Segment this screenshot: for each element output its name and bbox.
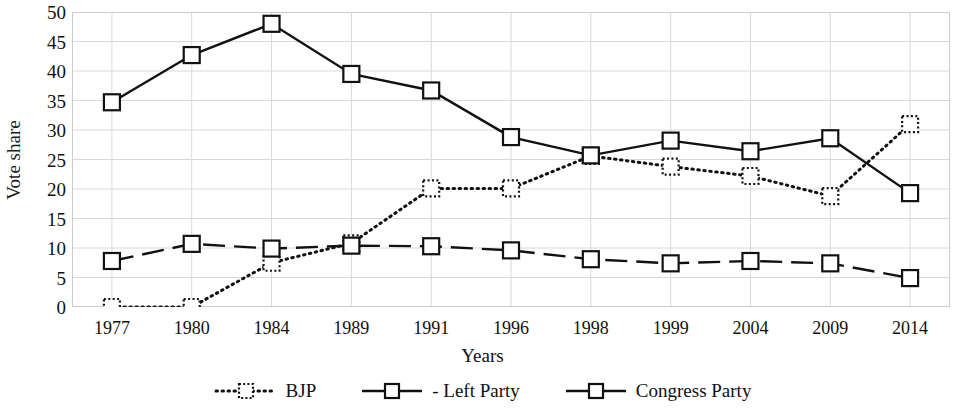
y-axis-tick-label: 20 [26,180,66,199]
x-axis-tick-label: 1998 [546,318,636,339]
x-axis-tick-label: 2014 [865,318,955,339]
legend-label: - Left Party [432,380,520,402]
x-axis-tick-label: 1984 [227,318,317,339]
data-point-marker [583,147,599,163]
x-axis-tick-label: 1980 [147,318,237,339]
y-axis-tick-label: 50 [26,3,66,22]
data-point-marker [822,255,838,271]
legend-swatch-icon [564,382,628,400]
data-point-marker [184,47,200,63]
data-point-marker [902,270,918,286]
x-axis-tick-label: 1999 [626,318,716,339]
x-axis-tick-label: 2009 [785,318,875,339]
data-point-marker [423,180,439,196]
data-point-marker [184,299,200,307]
data-point-marker [343,238,359,254]
y-axis-tick-label: 40 [26,62,66,81]
x-axis-tick-label: 1989 [306,318,396,339]
data-point-marker [104,94,120,110]
plot-svg [72,12,950,307]
legend-swatch-icon [214,382,278,400]
data-point-marker [423,82,439,98]
data-point-marker [264,241,280,257]
vote-share-line-chart: Vote share 05101520253035404550 19771980… [0,0,965,413]
data-point-marker [184,236,200,252]
y-axis-tick-labels: 05101520253035404550 [24,0,66,320]
legend-item-bjp[interactable]: BJP [214,380,317,402]
legend-item-congress-party[interactable]: Congress Party [564,380,752,402]
y-axis-tick-label: 0 [26,298,66,317]
y-axis-tick-label: 30 [26,121,66,140]
data-point-marker [503,180,519,196]
y-axis-tick-label: 45 [26,33,66,52]
data-point-marker [104,253,120,269]
data-point-marker [663,159,679,175]
data-point-marker [104,299,120,307]
data-point-marker [742,168,758,184]
data-point-marker [902,185,918,201]
y-axis-title-label: Vote share [3,120,25,199]
gridlines [72,12,950,307]
data-point-marker [663,255,679,271]
data-point-marker [264,16,280,32]
x-axis-tick-label: 1991 [386,318,476,339]
data-point-marker [742,143,758,159]
data-point-marker [663,133,679,149]
y-axis-tick-label: 5 [26,269,66,288]
data-point-marker [503,129,519,145]
chart-legend: BJP- Left PartyCongress Party [0,376,965,406]
x-axis-tick-label: 2004 [705,318,795,339]
data-point-marker [902,116,918,132]
legend-item-left-party[interactable]: - Left Party [360,380,520,402]
x-axis-tick-label: 1996 [466,318,556,339]
data-point-marker [503,242,519,258]
x-axis-title-label: Years [0,345,965,367]
data-point-marker [742,253,758,269]
y-axis-tick-label: 15 [26,210,66,229]
y-axis-tick-label: 10 [26,239,66,258]
legend-label: Congress Party [636,380,752,402]
data-point-marker [343,66,359,82]
legend-label: BJP [286,380,317,402]
x-axis-tick-label: 1977 [67,318,157,339]
y-axis-tick-label: 35 [26,92,66,111]
data-point-marker [822,188,838,204]
data-point-marker [583,251,599,267]
data-point-marker [822,130,838,146]
y-axis-tick-label: 25 [26,151,66,170]
plot-area [72,12,950,307]
data-point-marker [423,238,439,254]
legend-swatch-icon [360,382,424,400]
